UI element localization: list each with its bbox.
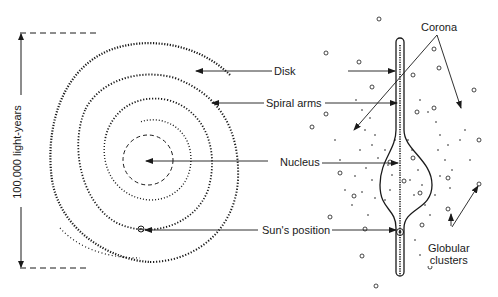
label-sun-position: Sun's position [260, 224, 332, 236]
label-disk: Disk [272, 65, 297, 77]
leader-lines [145, 35, 478, 230]
label-nucleus: Nucleus [278, 156, 322, 168]
label-spiral-arms: Spiral arms [264, 97, 324, 109]
label-globular-clusters: Globular clusters [426, 242, 472, 266]
label-globular-line2: clusters [428, 254, 470, 266]
scale-bar [18, 33, 100, 268]
galaxy-diagram: 100,000 light-years Disk Spiral arms Nuc… [0, 0, 498, 297]
diagram-drawing [0, 0, 498, 297]
label-globular-line1: Globular [428, 242, 470, 254]
edge-on-galaxy [380, 38, 432, 276]
scale-label: 100,000 light-years [11, 97, 23, 207]
label-corona: Corona [419, 21, 459, 33]
